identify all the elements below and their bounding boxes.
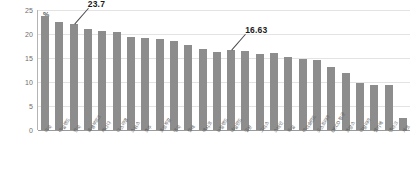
y-tick-label-15: 15 [16,55,33,62]
bar [227,50,235,130]
y-tick-label-20: 20 [16,31,33,38]
bar [199,49,207,130]
y-tick-label-10: 10 [16,79,33,86]
bar [241,51,249,130]
bar [127,37,135,130]
bar [156,39,164,130]
bar [299,59,307,130]
y-tick-label-25: 25 [16,7,33,14]
bar [213,52,221,130]
bar [55,22,63,130]
bar [70,24,78,130]
bar [113,32,121,130]
y-tick-label-5: 5 [16,103,33,110]
bar [141,38,149,130]
chart-screenshot: 0510152025 % 23.716.63 미국아일랜드한국룩셈부르크캐나다이… [0,0,417,185]
bar [284,57,292,130]
bar [270,53,278,130]
bar [84,29,92,130]
bar [256,54,264,130]
bar [184,45,192,130]
callout-value-label: 23.7 [88,0,105,9]
bar [342,73,350,130]
y-tick-label-0: 0 [16,127,33,134]
x-axis-category-labels: 미국아일랜드한국룩셈부르크캐나다이스라엘스위스호주포르투갈영국칠레멕시코뉴질랜드… [38,131,410,185]
bar [41,16,49,130]
callout-value-label: 16.63 [245,25,267,35]
bar [170,41,178,130]
bar [327,67,335,130]
bar-series [38,10,410,130]
plot-area: 23.716.63 [38,10,410,130]
